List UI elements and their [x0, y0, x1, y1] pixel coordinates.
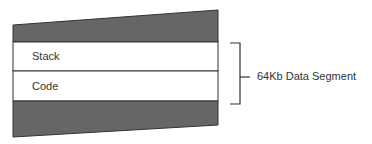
- stack-label: Stack: [32, 50, 60, 62]
- top-region: [13, 10, 218, 42]
- data-segment-label: 64Kb Data Segment: [257, 70, 356, 82]
- code-label: Code: [32, 80, 58, 92]
- segment-bracket: [230, 43, 240, 104]
- bottom-region: [13, 101, 218, 137]
